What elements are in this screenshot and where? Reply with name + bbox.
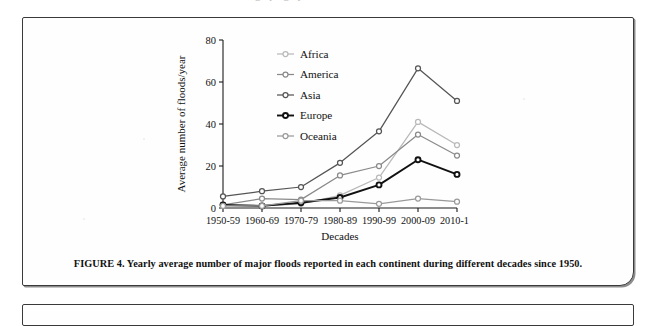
legend-label: Oceania	[300, 130, 337, 142]
figure-caption: FIGURE 4. Yearly average number of major…	[23, 258, 633, 269]
scan-speckle	[523, 98, 525, 100]
data-point-marker	[455, 199, 460, 204]
scan-speckle	[143, 138, 145, 140]
data-point-marker	[221, 203, 226, 208]
data-point-marker	[260, 189, 265, 194]
legend-item-africa: Africa	[277, 48, 329, 60]
clipped-descenders: g p g y	[255, 0, 306, 1]
x-tick-label: 2000-09	[401, 215, 435, 226]
x-tick-label: 1950-59	[206, 215, 240, 226]
data-point-marker	[416, 119, 421, 124]
legend-swatch-marker	[283, 52, 288, 57]
data-point-marker	[416, 196, 421, 201]
series-asia	[221, 66, 460, 199]
next-figure-container	[22, 304, 634, 326]
x-tick-label: 1970-79	[284, 215, 318, 226]
data-point-marker	[416, 132, 421, 137]
y-axis-title: Average number of floods/year	[175, 55, 187, 192]
data-point-marker	[338, 173, 343, 178]
y-tick-label: 0	[211, 203, 216, 214]
data-point-marker	[221, 194, 226, 199]
x-axis-title: Decades	[321, 230, 358, 242]
y-tick-label: 80	[206, 35, 217, 46]
data-point-marker	[377, 182, 382, 187]
x-tick-label: 2010-15	[440, 215, 469, 226]
data-point-marker	[260, 196, 265, 201]
legend-swatch-marker	[283, 113, 288, 118]
y-tick-label: 60	[206, 77, 217, 88]
data-point-marker	[299, 198, 304, 203]
y-tick-label: 40	[206, 119, 217, 130]
data-point-marker	[455, 153, 460, 158]
x-tick-label: 1990-99	[362, 215, 396, 226]
data-point-marker	[455, 172, 460, 177]
legend-label: Africa	[300, 48, 329, 60]
x-tick-label: 1960-69	[245, 215, 279, 226]
clipped-text-above-figure: g p g y	[0, 0, 657, 11]
legend-item-america: America	[277, 68, 339, 80]
legend-swatch-marker	[283, 134, 288, 139]
legend-item-europe: Europe	[277, 109, 332, 121]
legend-item-asia: Asia	[277, 89, 321, 101]
x-tick-label: 1980-89	[323, 215, 357, 226]
scan-speckle	[83, 218, 85, 220]
data-point-marker	[338, 160, 343, 165]
legend-label: Europe	[300, 109, 332, 121]
data-point-marker	[338, 198, 343, 203]
data-point-marker	[416, 157, 421, 162]
data-point-marker	[455, 143, 460, 148]
data-point-marker	[377, 164, 382, 169]
data-point-marker	[377, 175, 382, 180]
data-point-marker	[260, 203, 265, 208]
line-chart: 0204060801950-591960-691970-791980-89199…	[169, 28, 469, 254]
data-point-marker	[377, 129, 382, 134]
data-point-marker	[455, 98, 460, 103]
figure-container: 0204060801950-591960-691970-791980-89199…	[22, 17, 634, 286]
chart-svg: 0204060801950-591960-691970-791980-89199…	[169, 28, 469, 254]
data-point-marker	[416, 66, 421, 71]
legend-label: America	[300, 68, 339, 80]
legend-swatch-marker	[283, 72, 288, 77]
data-point-marker	[299, 185, 304, 190]
data-point-marker	[377, 201, 382, 206]
y-tick-label: 20	[206, 161, 217, 172]
legend-swatch-marker	[283, 93, 288, 98]
legend-label: Asia	[300, 89, 321, 101]
legend-item-oceania: Oceania	[277, 130, 337, 142]
